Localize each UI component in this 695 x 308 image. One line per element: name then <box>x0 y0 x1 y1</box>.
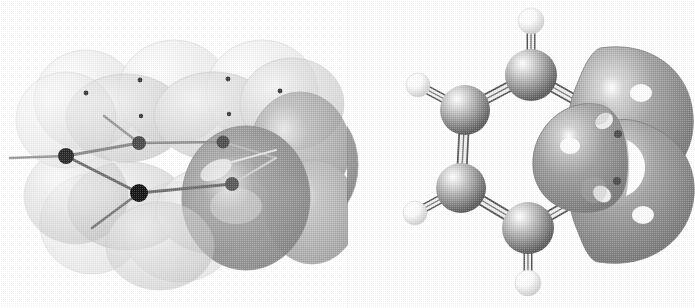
left-panel-svg <box>0 0 348 308</box>
panel-atomic-p-orbitals <box>0 0 348 308</box>
right-panel-svg <box>347 0 695 308</box>
panel-molecular-orbital <box>347 0 695 308</box>
dither-texture <box>0 0 348 308</box>
dither-texture <box>347 0 695 308</box>
figure-container <box>0 0 695 308</box>
